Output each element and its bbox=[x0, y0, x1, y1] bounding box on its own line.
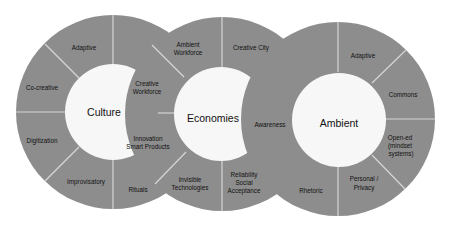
economies-segment-awareness: Awareness bbox=[254, 121, 285, 128]
economies-segment-invisible-line2: Technologies bbox=[172, 184, 209, 192]
culture-segment-creative-workforce-line2: Workforce bbox=[133, 88, 162, 95]
venn-ring-diagram: Culture Adaptive Co-creative Digitizatio… bbox=[0, 0, 450, 227]
culture-segment-innovation-line1: Innovation bbox=[133, 135, 163, 142]
ambient-segment-personal-line1: Personal / bbox=[350, 175, 379, 182]
culture-segment-creative-workforce-line1: Creative bbox=[135, 80, 159, 87]
culture-segment-improvisatory: Improvisatory bbox=[67, 178, 106, 186]
ambient-segment-open-ed-line1: Open-ed bbox=[388, 134, 413, 142]
culture-segment-innovation-line2: Smart Products bbox=[126, 143, 169, 150]
economies-segment-ambient-workforce-line1: Ambient bbox=[176, 41, 199, 48]
economies-segment-ambient-workforce-line2: Workforce bbox=[174, 49, 203, 56]
ambient-segment-rhetoric: Rhetoric bbox=[299, 187, 322, 194]
ambient-segment-open-ed-line3: systems) bbox=[388, 150, 413, 158]
culture-segment-digitization: Digitization bbox=[27, 137, 58, 145]
economies-segment-creative-city: Creative City bbox=[233, 44, 270, 52]
economies-segment-reliability-line2: Social bbox=[235, 179, 252, 186]
economies-segment-reliability-line3: Acceptance bbox=[228, 187, 261, 195]
ambient-segment-adaptive: Adaptive bbox=[351, 52, 376, 60]
culture-segment-adaptive: Adaptive bbox=[72, 44, 97, 52]
economies-segment-invisible-line1: Invisible bbox=[179, 176, 202, 183]
ambient-title: Ambient bbox=[320, 117, 359, 129]
culture-title: Culture bbox=[87, 106, 121, 118]
culture-segment-co-creative: Co-creative bbox=[26, 84, 59, 91]
economies-segment-reliability-line1: Reliability bbox=[231, 171, 259, 179]
ambient-segment-commons: Commons bbox=[389, 91, 418, 98]
culture-segment-rituals: Rituals bbox=[128, 186, 147, 193]
ambient-segment-personal-line2: Privacy bbox=[354, 184, 375, 192]
ambient-segment-open-ed-line2: (mindset bbox=[388, 142, 412, 150]
economies-title: Economies bbox=[187, 112, 239, 124]
